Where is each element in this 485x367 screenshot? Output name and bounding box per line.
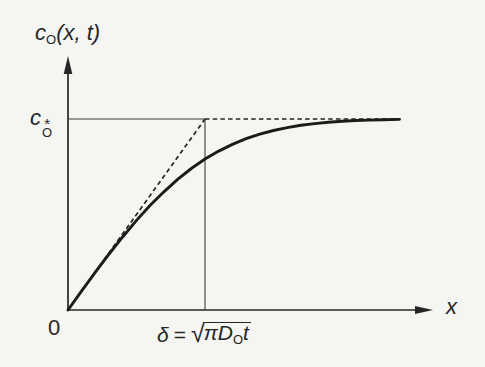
delta-symbol: δ [157,323,169,347]
y-axis-label-args: (x, t) [56,20,100,45]
axes [64,56,433,314]
y-axis-arrow-icon [64,56,73,74]
cstar-label-base: c [30,105,41,130]
y-axis-label: cO(x, t) [35,20,100,47]
radicand: πDOt [203,322,251,350]
radicand-D-subscript: O [233,332,243,347]
diffusion-profile-figure: cO(x, t) c*O 0 x δ = √ πDOt [0,0,485,367]
origin-label: 0 [48,315,60,341]
x-axis-arrow-icon [415,306,433,314]
y-axis-label-base: c [35,20,46,45]
cstar-label-subscript: O [42,128,52,137]
x-axis-label: x [446,294,457,320]
cstar-label-scripts: *O [42,120,52,137]
radicand-t: t [243,321,249,344]
concentration-curve [68,119,400,310]
equals-sign: = [174,323,186,347]
radicand-pi-D: πD [204,321,233,344]
plot-series-layer [68,119,400,310]
cstar-label: c*O [30,105,52,133]
delta-formula-label: δ = √ πDOt [157,322,251,350]
y-axis-label-subscript: O [46,32,56,47]
plot-canvas [0,0,485,367]
square-root-expression: √ πDOt [191,322,251,350]
